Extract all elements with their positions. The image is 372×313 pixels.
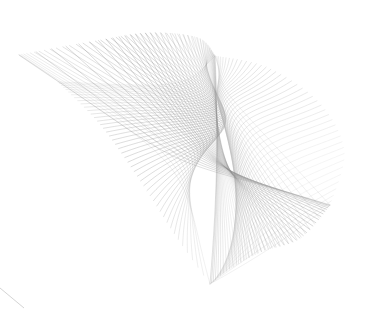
artboard [0, 0, 372, 313]
generative-line-art [0, 0, 372, 313]
